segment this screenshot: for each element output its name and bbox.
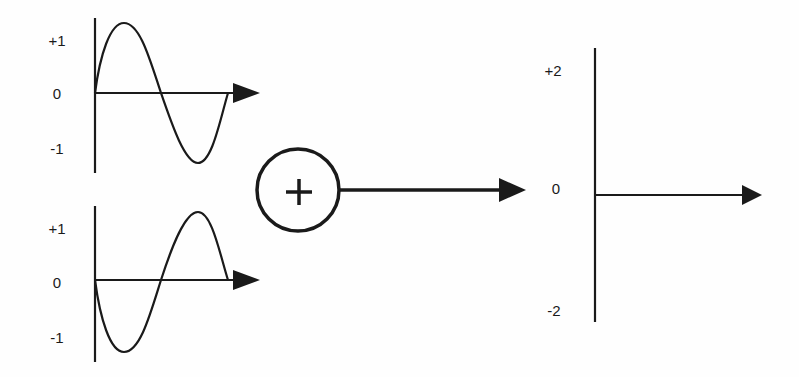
top-label-zero: 0 <box>53 85 61 102</box>
output-label-zero: 0 <box>552 180 560 197</box>
diagram-canvas <box>0 0 799 377</box>
bottom-label-zero: 0 <box>53 274 61 291</box>
top-x-axis-arrowhead-icon <box>233 83 260 103</box>
bottom-label-neg: -1 <box>50 329 63 346</box>
wave-superposition-diagram: +1 0 -1 +1 0 -1 +2 0 -2 <box>0 0 799 377</box>
bottom-inverted-sine-wave <box>95 212 228 352</box>
plus-icon <box>286 179 312 205</box>
top-input-graph <box>95 18 260 173</box>
output-x-axis-arrowhead-icon <box>742 185 762 205</box>
output-graph <box>595 48 762 322</box>
bottom-input-graph <box>95 206 260 362</box>
summing-junction <box>257 149 526 231</box>
bottom-label-pos: +1 <box>48 220 65 237</box>
output-label-pos: +2 <box>544 62 561 79</box>
connector-arrowhead-icon <box>499 178 526 202</box>
top-label-neg: -1 <box>50 140 63 157</box>
bottom-x-axis-arrowhead-icon <box>233 270 260 290</box>
top-label-pos: +1 <box>48 32 65 49</box>
output-label-neg: -2 <box>547 302 560 319</box>
